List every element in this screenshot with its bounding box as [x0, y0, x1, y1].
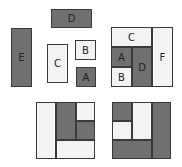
bottom-left-block-2 [76, 102, 95, 121]
loose-block-a: A [76, 67, 96, 87]
loose-block-e: E [11, 28, 32, 87]
bottom-right-block-0 [112, 102, 132, 121]
assembled-block-c: C [111, 27, 152, 47]
bottom-right-block-1 [112, 121, 132, 140]
bottom-left-block-1 [56, 102, 76, 140]
assembled-block-a: A [111, 47, 132, 67]
loose-block-b: B [75, 40, 96, 60]
assembled-block-d: D [132, 47, 152, 87]
bottom-right-block-2 [132, 102, 152, 140]
loose-block-c: C [47, 44, 68, 83]
bottom-left-block-3 [76, 121, 95, 140]
bottom-right-block-4 [112, 140, 152, 159]
assembled-block-f: F [152, 27, 173, 87]
loose-block-d: D [51, 9, 92, 28]
bottom-right-block-3 [152, 102, 171, 159]
bottom-left-block-4 [56, 140, 95, 159]
assembled-block-b: B [111, 67, 132, 87]
bottom-left-block-0 [36, 102, 56, 159]
